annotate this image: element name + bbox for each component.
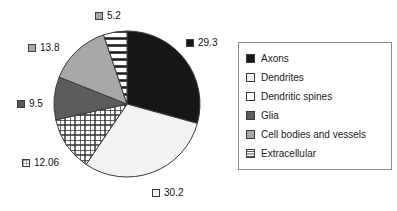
legend-label-dendrites: Dendrites [261,72,304,83]
data-label-glia: 9.5 [17,98,43,109]
legend-item-dendrites[interactable]: Dendrites [246,68,391,87]
legend-label-dendritic-spines: Dendritic spines [261,91,332,102]
data-label-value-dendrites: 30.2 [164,187,183,198]
legend-label-axons: Axons [261,53,289,64]
pie-plot-area: 5.2 29.3 13.8 9.5 12.06 30.2 [0,0,232,211]
data-label-value-axons: 29.3 [198,37,217,48]
legend-item-axons[interactable]: Axons [246,49,391,68]
data-label-cell-bodies-and-vessels: 13.8 [28,42,59,53]
legend-item-glia[interactable]: Glia [246,106,391,125]
pie-chart-figure: 5.2 29.3 13.8 9.5 12.06 30.2 A [0,0,397,211]
legend-item-extracellular[interactable]: Extracellular [246,144,391,163]
data-label-axons: 29.3 [186,37,217,48]
legend-swatch-glia [246,111,255,120]
legend-item-cell-bodies-and-vessels[interactable]: Cell bodies and vessels [246,125,391,144]
data-label-value-extracellular: 5.2 [107,10,121,21]
legend-item-dendritic-spines[interactable]: Dendritic spines [246,87,391,106]
legend-swatch-cell-bodies-and-vessels [246,130,255,139]
legend-swatch-axons [246,54,255,63]
legend-label-cell-bodies-and-vessels: Cell bodies and vessels [261,129,366,140]
chart-legend: Axons Dendrites Dendritic spines Glia Ce… [238,42,392,170]
pie-slices [54,31,200,177]
legend-swatch-dendritic-spines [246,92,255,101]
legend-label-glia: Glia [261,110,279,121]
data-label-extracellular: 5.2 [95,10,121,21]
legend-swatch-extracellular [246,149,255,158]
data-label-dendritic-spines: 12.06 [22,157,59,168]
legend-label-extracellular: Extracellular [261,148,316,159]
data-label-swatch-axons [186,39,194,47]
data-label-value-cell-bodies-and-vessels: 13.8 [40,42,59,53]
data-label-value-glia: 9.5 [29,98,43,109]
data-label-value-dendritic-spines: 12.06 [34,157,59,168]
data-label-swatch-extracellular [95,12,103,20]
data-label-swatch-dendrites [152,189,160,197]
data-label-swatch-cell-bodies-and-vessels [28,44,36,52]
data-label-swatch-dendritic-spines [22,159,30,167]
legend-swatch-dendrites [246,73,255,82]
data-label-dendrites: 30.2 [152,187,183,198]
data-label-swatch-glia [17,100,25,108]
